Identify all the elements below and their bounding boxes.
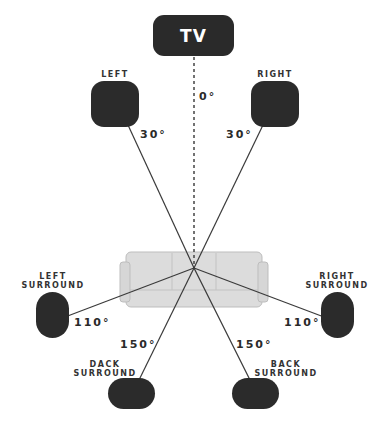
back-right-angle: 150° [236,338,272,351]
right-surround-speaker [321,292,354,338]
sofa-icon [120,252,268,307]
speaker-placement-diagram: TV 0° LEFT 30° RIGHT 30° LEFT SURROUND 1… [0,0,387,433]
tv-angle: 0° [199,90,216,103]
back-left-speaker [108,378,155,409]
tv: TV [153,15,234,56]
left-speaker [91,81,139,127]
back-right-label: BACK SURROUND [251,360,321,378]
back-left-angle: 150° [120,338,156,351]
left-angle: 30° [140,128,167,141]
right-surround-angle: 110° [284,316,320,329]
left-surround-angle: 110° [74,316,110,329]
right-speaker-label: RIGHT [250,70,300,79]
left-speaker-label: LEFT [90,70,140,79]
back-right-speaker [232,378,279,409]
back-left-label: DACK SURROUND [70,360,140,378]
left-surround-speaker [36,292,69,338]
tv-label: TV [180,26,207,46]
right-surround-label: RIGHT SURROUND [297,272,377,290]
right-angle: 30° [226,128,253,141]
right-speaker [251,81,299,127]
left-surround-label: LEFT SURROUND [14,272,92,290]
diagram-lines [0,0,387,433]
